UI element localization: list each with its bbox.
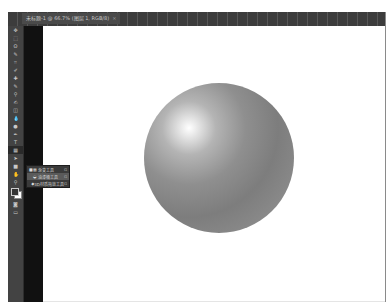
brush-tool-icon[interactable]: ✎ [8, 82, 23, 90]
quick-mask-icon[interactable]: ◙ [8, 200, 23, 208]
screen-mode-icon[interactable]: ▭ [8, 208, 23, 216]
shape-tool-icon[interactable]: ■ [8, 162, 23, 170]
eraser-tool-icon[interactable]: ◫ [8, 106, 23, 114]
gradient-sphere [144, 83, 294, 233]
healing-brush-tool-icon[interactable]: ✚ [8, 74, 23, 82]
color-swatches[interactable] [8, 186, 23, 200]
marquee-tool-icon[interactable]: ⬚ [8, 34, 23, 42]
dodge-tool-icon[interactable]: ● [8, 122, 23, 130]
zoom-tool-icon[interactable]: ⚲ [8, 178, 23, 186]
pen-tool-icon[interactable]: ✒ [8, 130, 23, 138]
path-select-tool-icon[interactable]: ➤ [8, 154, 23, 162]
lasso-tool-icon[interactable]: ʘ [8, 42, 23, 50]
document-tab-bar: 未标题-1 @ 66.7% (图层 1, RGB/8)× [8, 12, 385, 26]
close-tab-icon[interactable]: × [112, 15, 116, 21]
document-tab[interactable]: 未标题-1 @ 66.7% (图层 1, RGB/8)× [22, 13, 120, 24]
pasteboard-left [24, 26, 43, 302]
canvas-bottom-edge [43, 301, 385, 302]
crop-tool-icon[interactable]: ⌗ [8, 58, 23, 66]
fill-tools-flyout-menu: ■ ▦ 渐变工具 G ◒ 油漆桶工具 G ◆ 3D材质拖放工具 G [26, 165, 70, 188]
flyout-item-3d-material-drop-tool[interactable]: ◆ 3D材质拖放工具 G [27, 180, 69, 187]
eyedropper-tool-icon[interactable]: ✐ [8, 66, 23, 74]
flyout-item-paint-bucket-tool[interactable]: ◒ 油漆桶工具 G [27, 173, 69, 180]
foreground-color-swatch[interactable] [11, 188, 19, 196]
app-window: 未标题-1 @ 66.7% (图层 1, RGB/8)× ✥ ⬚ ʘ ✎ ⌗ ✐… [8, 12, 386, 302]
blur-tool-icon[interactable]: 💧 [8, 114, 23, 122]
hand-tool-icon[interactable]: ✋ [8, 170, 23, 178]
flyout-item-gradient-tool[interactable]: ■ ▦ 渐变工具 G [27, 166, 69, 173]
history-brush-tool-icon[interactable]: ✍ [8, 98, 23, 106]
document-canvas[interactable] [43, 26, 385, 302]
document-tab-title: 未标题-1 @ 66.7% (图层 1, RGB/8) [26, 15, 109, 21]
tools-panel: ✥ ⬚ ʘ ✎ ⌗ ✐ ✚ ✎ ⚲ ✍ ◫ 💧 ● ✒ T ▦ ➤ ■ ✋ ⚲ … [8, 26, 24, 302]
move-tool-icon[interactable]: ✥ [8, 26, 23, 34]
gradient-tool-icon[interactable]: ▦ [8, 146, 23, 154]
type-tool-icon[interactable]: T [8, 138, 23, 146]
quick-select-tool-icon[interactable]: ✎ [8, 50, 23, 58]
clone-stamp-tool-icon[interactable]: ⚲ [8, 90, 23, 98]
